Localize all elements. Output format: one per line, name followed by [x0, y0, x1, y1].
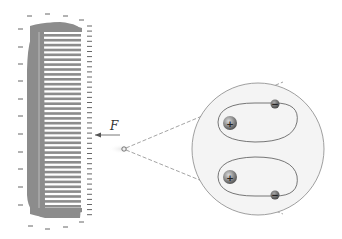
minus-sign-icon: −: [271, 99, 279, 109]
plus-sign-icon: +: [226, 119, 234, 129]
electrostatic-induction-diagram: F + − + −: [0, 0, 342, 239]
plus-sign-icon: +: [226, 173, 234, 183]
minus-sign-icon: −: [271, 190, 279, 200]
force-arrow: [95, 133, 120, 138]
comb-teeth: [44, 34, 81, 208]
force-label: F: [109, 119, 119, 133]
comb: [27, 22, 82, 218]
